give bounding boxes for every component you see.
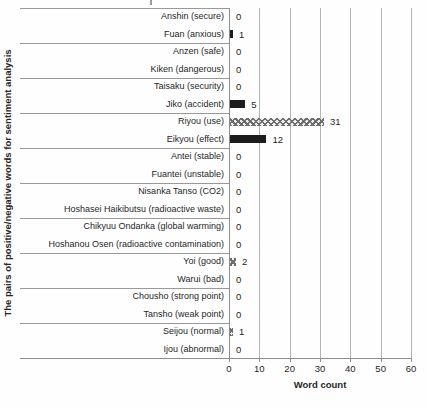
category-label: Taisaku (security) bbox=[20, 78, 224, 96]
category-label: Seijou (normal) bbox=[20, 323, 224, 341]
plot-area: 0102030405060Anshin (secure)0Fuan (anxio… bbox=[0, 0, 427, 408]
x-axis-tick-label: 30 bbox=[309, 363, 331, 375]
value-label: 0 bbox=[236, 166, 241, 184]
gridline bbox=[320, 8, 321, 358]
x-axis-tick-label: 10 bbox=[248, 363, 270, 375]
value-label: 1 bbox=[239, 26, 244, 44]
value-label: 0 bbox=[236, 271, 241, 289]
category-label: Anzen (safe) bbox=[20, 43, 224, 61]
value-label: 0 bbox=[236, 61, 241, 79]
category-label: Chousho (strong point) bbox=[20, 288, 224, 306]
value-label: 0 bbox=[236, 341, 241, 359]
category-label: Fuantei (unstable) bbox=[20, 166, 224, 184]
category-label: Warui (bad) bbox=[20, 271, 224, 289]
value-label: 12 bbox=[272, 131, 283, 149]
bar bbox=[230, 328, 233, 336]
value-label: 0 bbox=[236, 148, 241, 166]
x-axis-line bbox=[20, 358, 412, 359]
value-label: 0 bbox=[236, 288, 241, 306]
gridline bbox=[381, 8, 382, 358]
category-label: Hoshasei Haikibutsu (radioactive waste) bbox=[20, 201, 224, 219]
bar bbox=[230, 100, 245, 108]
y-axis-line bbox=[229, 8, 230, 358]
value-label: 0 bbox=[236, 218, 241, 236]
x-axis-tick-label: 60 bbox=[400, 363, 422, 375]
category-label: Nisanka Tanso (CO2) bbox=[20, 183, 224, 201]
x-axis-tick-label: 40 bbox=[339, 363, 361, 375]
value-label: 0 bbox=[236, 78, 241, 96]
value-label: 0 bbox=[236, 43, 241, 61]
bar bbox=[230, 118, 324, 126]
category-label: Riyou (use) bbox=[20, 113, 224, 131]
value-label: 0 bbox=[236, 183, 241, 201]
bar bbox=[230, 258, 236, 266]
category-label: Anshin (secure) bbox=[20, 8, 224, 26]
bar bbox=[230, 135, 266, 143]
value-label: 5 bbox=[251, 96, 256, 114]
x-axis-tick-label: 0 bbox=[218, 363, 240, 375]
category-label: Tansho (weak point) bbox=[20, 306, 224, 324]
value-label: 0 bbox=[236, 306, 241, 324]
category-label: Kiken (dangerous) bbox=[20, 61, 224, 79]
category-label: Ijou (abnormal) bbox=[20, 341, 224, 359]
category-label: Yoi (good) bbox=[20, 253, 224, 271]
gridline bbox=[411, 8, 412, 358]
x-axis-tick-label: 20 bbox=[279, 363, 301, 375]
value-label: 0 bbox=[236, 8, 241, 26]
chart-figure: The pairs of positive/negative words for… bbox=[0, 0, 427, 408]
x-axis-title: Word count bbox=[229, 378, 411, 392]
category-label: Antei (stable) bbox=[20, 148, 224, 166]
category-label: Jiko (accident) bbox=[20, 96, 224, 114]
category-label: Fuan (anxious) bbox=[20, 26, 224, 44]
value-label: 0 bbox=[236, 236, 241, 254]
category-label: Hoshanou Osen (radioactive contamination… bbox=[20, 236, 224, 254]
value-label: 2 bbox=[242, 253, 247, 271]
bar bbox=[230, 30, 233, 38]
category-label: Eikyou (effect) bbox=[20, 131, 224, 149]
x-axis-tick-label: 50 bbox=[370, 363, 392, 375]
gridline bbox=[259, 8, 260, 358]
value-label: 1 bbox=[239, 323, 244, 341]
value-label: 0 bbox=[236, 201, 241, 219]
gridline bbox=[350, 8, 351, 358]
gridline bbox=[290, 8, 291, 358]
value-label: 31 bbox=[330, 113, 341, 131]
category-label: Chikyuu Ondanka (global warming) bbox=[20, 218, 224, 236]
